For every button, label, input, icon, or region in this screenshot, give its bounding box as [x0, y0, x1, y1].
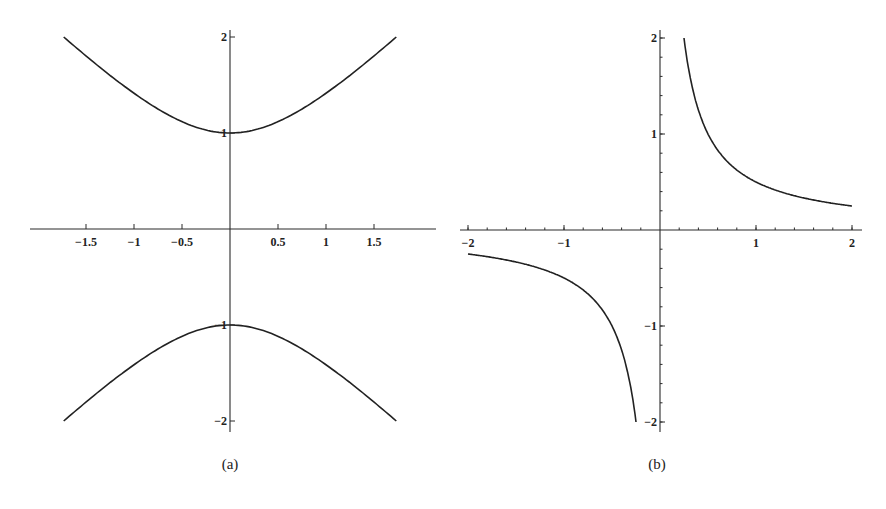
x-tick-label: −1.5: [75, 235, 97, 249]
x-tick-label: −1: [558, 236, 571, 250]
y-tick-label: −2: [214, 414, 227, 428]
x-tick-label: 0.5: [271, 235, 286, 249]
caption-a: (a): [222, 456, 239, 473]
caption-b: (b): [648, 456, 666, 473]
x-tick-label: −2: [462, 236, 475, 250]
x-tick-label: 2: [849, 236, 855, 250]
curve-third-quadrant-branch: [468, 254, 636, 422]
plot-b: −2−11221−1−2: [460, 30, 862, 432]
y-tick-label: 2: [221, 30, 227, 44]
x-tick-label: −0.5: [171, 235, 193, 249]
x-tick-label: 1.5: [367, 235, 382, 249]
x-tick-label: −1: [128, 235, 141, 249]
y-tick-label: −2: [644, 415, 657, 429]
plot-a: −1.5−1−0.50.511.521−1−2: [30, 30, 436, 432]
x-tick-label: 1: [323, 235, 329, 249]
x-tick-label: 1: [753, 236, 759, 250]
curve-first-quadrant-branch: [684, 38, 852, 206]
figure-canvas: −1.5−1−0.50.511.521−1−2−2−11221−1−2: [0, 0, 886, 509]
y-tick-label: −1: [644, 319, 657, 333]
y-tick-label: 2: [651, 31, 657, 45]
y-tick-label: 1: [651, 127, 657, 141]
